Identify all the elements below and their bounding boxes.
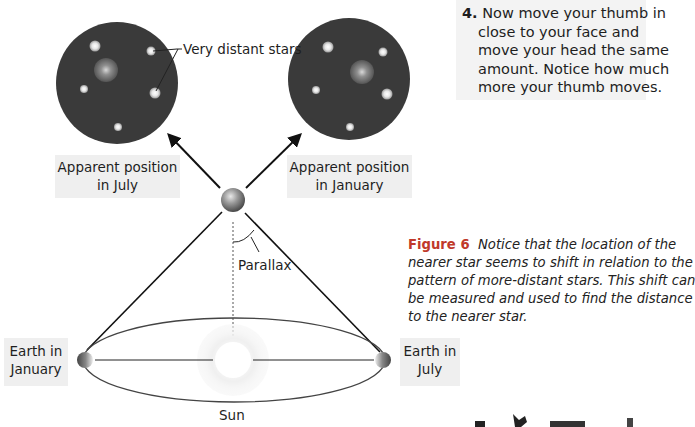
earth-january-icon [77,352,93,368]
figure-label: Figure 6 [408,237,470,252]
far-star-icon [346,123,354,131]
very-distant-stars-label: Very distant stars [183,40,302,58]
sightline-january [87,212,222,350]
near-star-january-icon [350,60,374,84]
step-line-5: more your thumb moves. [462,78,646,97]
step-instruction: 4. Now move your thumb in close to your … [456,0,646,100]
earth-january-label: Earth in January [4,338,68,386]
far-star-icon [323,42,334,53]
far-star-icon [114,123,122,131]
far-star-icon [150,88,161,99]
sun-icon [215,342,251,378]
earth-july-icon [375,352,391,368]
step-line-3: move your head the same [462,41,646,60]
near-star-july-icon [94,58,118,82]
parallax-callout-line [251,237,259,252]
cropped-artwork-fragment [455,412,636,427]
apparent-position-january-label: Apparent position in January [287,155,412,198]
earth-july-label: Earth in July [400,338,460,386]
sun-label: Sun [219,406,245,424]
step-line-2: close to your face and [462,23,646,42]
parallax-label: Parallax [238,256,291,274]
step-line-1: 4. Now move your thumb in [462,4,646,23]
apparent-position-july-label: Apparent position in July [55,155,180,198]
far-star-icon [90,41,101,52]
step-number: 4. [462,5,478,21]
far-star-icon [382,89,393,100]
step-line-4: amount. Notice how much [462,60,646,79]
sightline-july [245,213,380,352]
far-star-icon [379,48,388,57]
parallax-angle-arc [233,230,254,242]
figure-caption: Figure 6 Notice that the location of the… [408,236,648,326]
far-star-icon [80,85,88,93]
far-star-icon [312,86,320,94]
sky-disc-january [288,18,410,140]
near-star-icon [221,188,245,212]
